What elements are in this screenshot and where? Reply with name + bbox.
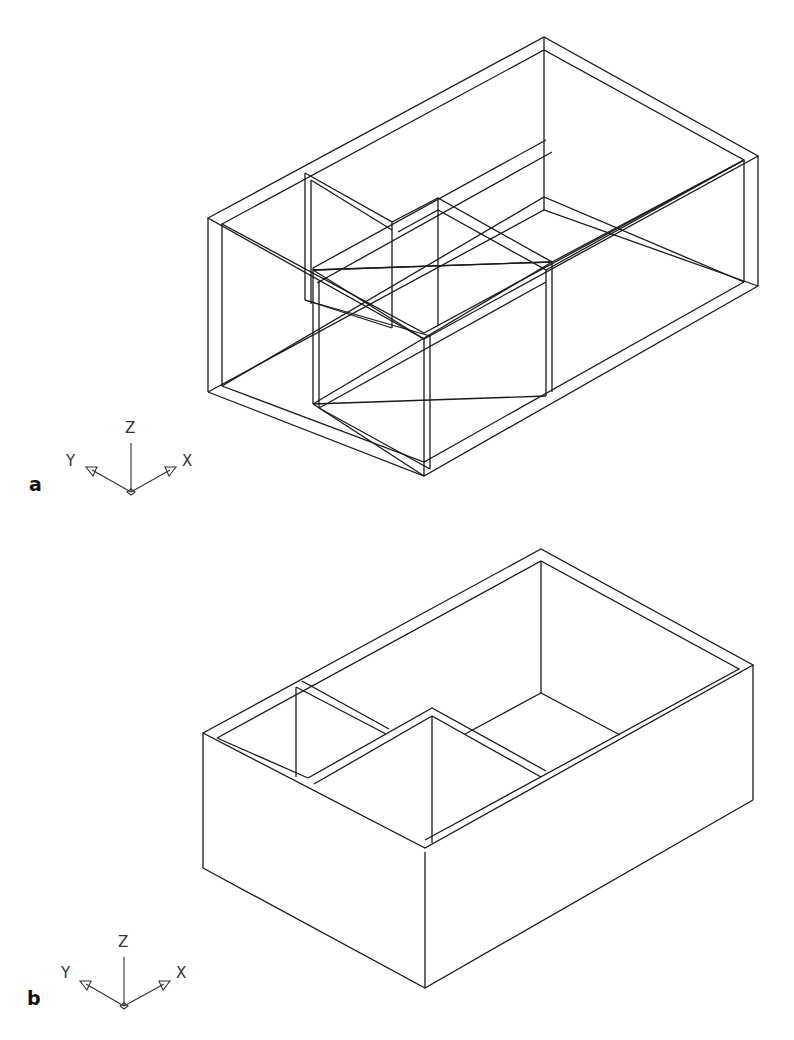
x-arrow-icon bbox=[159, 981, 170, 990]
y-arrow-icon bbox=[80, 981, 91, 990]
y-arrow-icon bbox=[86, 467, 97, 476]
ucs-a-z-label: Z bbox=[125, 419, 135, 437]
figure-canvas: Z Y X Z Y X bbox=[0, 0, 794, 1040]
ucs-a-x-label: X bbox=[182, 452, 192, 470]
panel-b-solid-model bbox=[203, 549, 753, 988]
ucs-b-y-label: Y bbox=[60, 964, 71, 982]
ucs-b-x-label: X bbox=[176, 964, 186, 982]
ucs-b-z-label: Z bbox=[118, 933, 128, 951]
panel-a-wireframe-model bbox=[208, 37, 758, 476]
ucs-icon-a: Z Y X bbox=[65, 419, 192, 495]
panel-b-label: b bbox=[27, 987, 41, 1009]
panel-a-label: a bbox=[29, 473, 42, 495]
ucs-icon-b: Z Y X bbox=[60, 933, 186, 1009]
ucs-a-y-label: Y bbox=[65, 452, 76, 470]
x-arrow-icon bbox=[165, 467, 176, 476]
